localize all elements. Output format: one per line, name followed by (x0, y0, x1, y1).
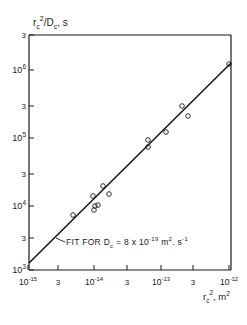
y-axis-label: rc2/Dc, s (33, 15, 68, 30)
x-axis-ticks: 10-15310-14310-13310-12 (19, 265, 239, 287)
data-point (71, 213, 76, 218)
fit-annotation-leader (56, 238, 65, 242)
x-axis-label: rc2, m2 (203, 289, 230, 304)
data-point (186, 114, 191, 119)
y-tick-label: 3 (22, 31, 27, 40)
y-tick-label: 105 (12, 131, 26, 143)
data-point (101, 184, 106, 189)
y-tick-label: 103 (12, 263, 26, 275)
x-tick-label: 3 (56, 278, 61, 287)
y-tick-label: 106 (12, 63, 26, 75)
x-tick-label: 3 (191, 278, 196, 287)
x-tick-label: 10-15 (19, 276, 38, 287)
data-point (107, 192, 112, 197)
data-points (71, 62, 232, 218)
data-point (91, 194, 96, 199)
log-log-scatter-chart: rc2/Dc, s 1033104310531063 10-15310-1431… (0, 0, 247, 325)
plot-frame (29, 35, 231, 270)
data-point (164, 130, 169, 135)
x-tick-label: 10-12 (220, 276, 239, 287)
fit-line (29, 63, 231, 263)
fit-annotation: FIT FOR Dc = 8 x 10-19 m2. s-1 (66, 236, 188, 249)
data-point (180, 104, 185, 109)
y-tick-label: 3 (22, 170, 27, 179)
y-tick-label: 104 (12, 199, 26, 211)
y-axis-ticks: 1033104310531063 (12, 31, 34, 275)
data-point (146, 138, 151, 143)
y-tick-label: 3 (22, 102, 27, 111)
data-point (96, 203, 101, 208)
x-tick-label: 3 (125, 278, 130, 287)
x-tick-label: 10-13 (152, 276, 171, 287)
x-tick-label: 10-14 (85, 276, 104, 287)
y-tick-label: 3 (22, 234, 27, 243)
